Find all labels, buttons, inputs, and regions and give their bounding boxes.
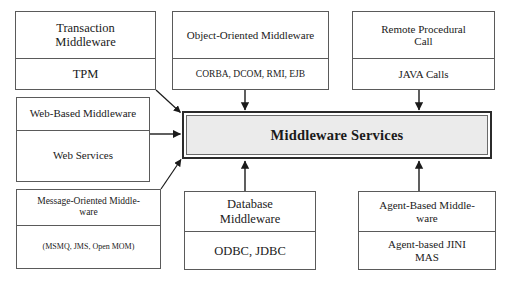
node-agent-based-middleware[interactable]: Agent-Based Middle- ware Agent-based JIN…	[358, 191, 496, 270]
node-web-based-middleware[interactable]: Web-Based Middleware Web Services	[16, 97, 150, 182]
node-rpc-detail: JAVA Calls	[353, 59, 494, 89]
node-transaction-detail: TPM	[16, 59, 155, 89]
node-database-detail: ODBC, JDBC	[185, 232, 315, 269]
node-middleware-services[interactable]: Middleware Services	[182, 111, 492, 159]
node-database-middleware[interactable]: Database Middleware ODBC, JDBC	[184, 191, 316, 270]
node-object-oriented-middleware[interactable]: Object-Oriented Middleware CORBA, DCOM, …	[172, 11, 329, 90]
node-object-oriented-detail: CORBA, DCOM, RMI, EJB	[173, 59, 328, 89]
node-message-oriented-middleware[interactable]: Message-Oriented Middle- ware (MSMQ, JMS…	[16, 189, 161, 269]
node-rpc-title: Remote Procedural Call	[353, 12, 494, 59]
node-web-based-detail: Web Services	[17, 131, 149, 181]
node-message-oriented-title: Message-Oriented Middle- ware	[17, 190, 160, 226]
diagram-canvas: Transaction Middleware TPM Object-Orient…	[0, 0, 508, 285]
node-web-based-title: Web-Based Middleware	[17, 98, 149, 131]
node-transaction-middleware[interactable]: Transaction Middleware TPM	[15, 11, 156, 90]
node-remote-procedural-call[interactable]: Remote Procedural Call JAVA Calls	[352, 11, 495, 90]
connector-message-oriented-to-center	[161, 160, 181, 190]
node-message-oriented-detail: (MSMQ, JMS, Open MOM)	[17, 226, 160, 268]
node-agent-based-detail: Agent-based JINI MAS	[359, 232, 495, 269]
node-object-oriented-title: Object-Oriented Middleware	[173, 12, 328, 59]
node-database-title: Database Middleware	[185, 192, 315, 232]
node-transaction-title: Transaction Middleware	[16, 12, 155, 59]
connector-transaction-to-center	[156, 90, 181, 113]
node-agent-based-title: Agent-Based Middle- ware	[359, 192, 495, 232]
node-middleware-services-label: Middleware Services	[186, 115, 488, 155]
